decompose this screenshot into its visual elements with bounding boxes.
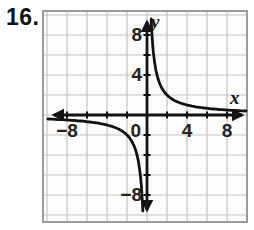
problem-number: 16. — [6, 4, 39, 31]
y-tick-label-8: 8 — [131, 24, 142, 45]
y-axis-letter: y — [149, 11, 160, 32]
function-graph: 8 4 −8 −8 0 4 8 y x — [42, 10, 248, 223]
x-tick-label-4: 4 — [182, 120, 193, 141]
y-tick-label-neg8: −8 — [120, 184, 142, 205]
x-axis-letter: x — [229, 87, 240, 108]
x-tick-label-8: 8 — [222, 120, 233, 141]
textbook-exercise: 16. 8 4 −8 −8 0 4 8 y — [0, 0, 254, 230]
x-tick-label-neg8: −8 — [56, 120, 78, 141]
origin-label: 0 — [130, 120, 141, 141]
y-tick-label-4: 4 — [131, 64, 142, 85]
plot-background — [42, 10, 248, 223]
graph-frame: 8 4 −8 −8 0 4 8 y x — [42, 10, 248, 223]
